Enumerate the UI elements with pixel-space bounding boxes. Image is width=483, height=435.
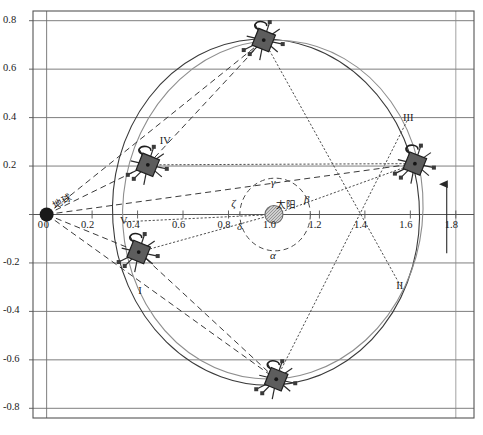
xtick-label-0p2: 0.2 <box>81 219 94 230</box>
spacecraft-instrument <box>152 145 156 149</box>
xtick-label-1p4: 1.4 <box>354 219 367 230</box>
spacecraft-instrument <box>123 264 127 268</box>
spacecraft-instrument <box>156 254 160 258</box>
ytick-label-0p4: 0.4 <box>3 111 16 122</box>
xtick-label-0p8: 0.8 <box>217 219 230 230</box>
spacecraft-instrument <box>393 172 397 176</box>
spacecraft-instrument <box>126 173 130 177</box>
spacecraft-dish <box>139 146 151 153</box>
point-label-V: V <box>120 215 128 226</box>
spacecraft-instrument <box>132 177 136 181</box>
sight-line-dashed <box>148 40 264 165</box>
spacecraft-instrument <box>143 232 147 236</box>
spacecraft-sc-upper-left <box>126 145 169 185</box>
ytick-label-neg0p4: -0.4 <box>3 304 20 315</box>
ytick-label-neg0p8: -0.8 <box>3 401 20 412</box>
ytick-label-neg0p6: -0.6 <box>3 353 20 364</box>
sight-line-dashed <box>47 40 264 214</box>
spacecraft-instrument <box>419 144 423 148</box>
spacecraft-dish <box>130 234 142 241</box>
sight-line-dashed <box>47 215 277 380</box>
spacecraft-instrument <box>280 359 284 363</box>
xtick-label-0: 0 <box>44 219 49 230</box>
ytick-label-neg0p2: -0.2 <box>3 256 20 267</box>
spacecraft-instrument <box>260 391 264 395</box>
spacecraft-hub <box>262 38 266 42</box>
ytick-label-0p6: 0.6 <box>3 62 16 73</box>
ytick-label-0p8: 0.8 <box>3 14 16 25</box>
spacecraft-hub <box>413 162 417 166</box>
angle-label-ζ: ζ <box>231 197 235 209</box>
point-label-II: II <box>396 280 403 291</box>
sight-line-dotted <box>276 119 408 379</box>
sight-line-dotted <box>148 164 415 165</box>
sight-line-dotted <box>139 215 274 253</box>
sight-lines <box>47 40 415 379</box>
sun-label: 太阳 <box>276 197 296 211</box>
xtick-label-1p0: 1.0 <box>263 219 276 230</box>
spacecraft-hub <box>274 377 278 381</box>
spacecraft-instrument <box>117 260 121 264</box>
spacecraft-instrument <box>432 166 436 170</box>
xtick-label-1p2: 1.2 <box>308 219 321 230</box>
point-label-I: I <box>138 285 142 296</box>
spacecraft-dish <box>267 361 279 368</box>
angle-label-β: β <box>304 193 309 205</box>
spacecraft-hub <box>146 163 150 167</box>
angle-label-α: α <box>270 249 276 261</box>
spacecraft-instrument <box>248 52 252 56</box>
spacecraft-instrument <box>242 48 246 52</box>
xtick-label-1p8: 1.8 <box>445 219 458 230</box>
spacecraft-dish <box>255 22 267 29</box>
spacecraft-instrument <box>293 381 297 385</box>
spacecraft-instrument <box>281 42 285 46</box>
orbit-diagram-canvas <box>0 0 483 435</box>
xtick-label-1p6: 1.6 <box>399 219 412 230</box>
point-label-IV: IV <box>160 135 171 146</box>
spacecraft-instrument <box>165 167 169 171</box>
spacecraft-instrument <box>399 176 403 180</box>
angle-label-γ: γ <box>271 176 275 188</box>
angle-label-δ: δ <box>237 220 242 232</box>
xtick-label-0p4: 0.4 <box>127 219 140 230</box>
spacecraft-instrument <box>254 387 258 391</box>
point-label-III: III <box>403 112 414 123</box>
orbit-diagram-figure: 00.20.40.60.81.01.21.41.61.80.80.60.40.2… <box>0 0 483 435</box>
spacecraft-instrument <box>268 20 272 24</box>
ytick-label-0: 0 <box>38 219 43 230</box>
xtick-label-0p6: 0.6 <box>172 219 185 230</box>
spacecraft-hub <box>137 250 141 254</box>
ytick-label-0p2: 0.2 <box>3 159 16 170</box>
